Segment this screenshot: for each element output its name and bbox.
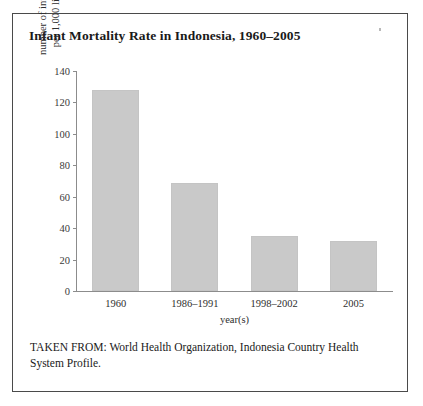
x-axis-tick-label: 2005 (343, 298, 364, 309)
y-axis-tick-label: 100 (54, 128, 70, 139)
bar (330, 241, 377, 291)
y-axis-tick-label: 60 (60, 191, 71, 202)
plot-area: 020406080100120140 19601986–19911998–200… (76, 71, 393, 291)
y-axis-tick-label: 120 (54, 97, 70, 108)
y-axis-tick-mark (73, 165, 76, 166)
y-axis-title-line2: per 1,000 live births (49, 0, 62, 55)
y-axis-tick-label: 0 (65, 286, 70, 297)
x-axis-line (76, 291, 393, 292)
y-axis-title-line1: number of infant deaths (36, 0, 49, 55)
y-axis-tick-label: 40 (60, 223, 71, 234)
bar-chart: number of infant deaths per 1,000 live b… (13, 14, 409, 393)
source-note: TAKEN FROM: World Health Organization, I… (30, 339, 394, 372)
y-axis-tick-mark (73, 102, 76, 103)
x-axis-tick-label: 1960 (105, 298, 126, 309)
y-axis-tick-mark (73, 260, 76, 261)
y-axis-line (76, 71, 77, 292)
bar (92, 90, 139, 291)
bar (171, 183, 218, 291)
y-axis-tick-label: 20 (60, 254, 71, 265)
bar (251, 236, 298, 291)
x-axis-tick-label: 1986–1991 (171, 298, 218, 309)
y-axis-tick-mark (73, 197, 76, 198)
x-axis-tick-label: 1998–2002 (251, 298, 298, 309)
y-axis-tick-mark (73, 71, 76, 72)
figure-frame: Infant Mortality Rate in Indonesia, 1960… (12, 13, 408, 392)
x-axis-title: year(s) (76, 314, 393, 325)
y-axis-tick-mark (73, 291, 76, 292)
y-axis-tick-mark (73, 228, 76, 229)
y-axis-tick-label: 80 (60, 160, 71, 171)
y-axis-tick-mark (73, 134, 76, 135)
y-axis-tick-label: 140 (54, 66, 70, 77)
